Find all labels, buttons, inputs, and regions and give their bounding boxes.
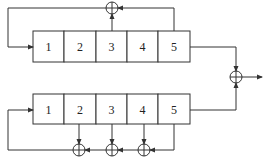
top-xor-icon [106, 2, 118, 14]
bottom-cell-5-label: 5 [171, 103, 177, 117]
bottom-register: 1 2 3 4 5 [33, 94, 190, 124]
bottom-xor-3-icon [138, 144, 150, 156]
top-tap-5-line [118, 8, 174, 31]
top-cell-1-label: 1 [46, 40, 52, 54]
bottom-output-line [190, 83, 236, 110]
top-cell-2-label: 2 [77, 40, 83, 54]
lfsr-diagram: 1 2 3 4 5 1 2 3 [0, 0, 266, 166]
bottom-tap-5-line [150, 124, 174, 150]
top-output-line [190, 47, 236, 71]
top-cell-4-label: 4 [140, 40, 146, 54]
bottom-cell-3-label: 3 [109, 103, 115, 117]
top-cell-3-label: 3 [109, 40, 115, 54]
top-cell-5-label: 5 [171, 40, 177, 54]
bottom-xor-1-icon [73, 144, 85, 156]
output-xor-icon [230, 71, 242, 83]
bottom-cell-2-label: 2 [77, 103, 83, 117]
bottom-cell-1-label: 1 [46, 103, 52, 117]
top-register: 1 2 3 4 5 [33, 31, 190, 62]
bottom-xor-2-icon [106, 144, 118, 156]
bottom-cell-4-label: 4 [140, 103, 146, 117]
